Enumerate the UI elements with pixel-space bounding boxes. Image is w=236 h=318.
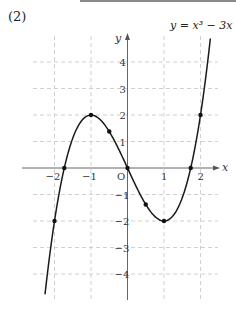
y-axis-label: y <box>114 32 122 45</box>
y-tick-label: −4 <box>115 269 130 280</box>
y-tick-label: −3 <box>115 243 130 254</box>
origin-label: O <box>117 171 125 182</box>
y-tick-label: 4 <box>120 57 126 68</box>
data-point <box>162 219 166 223</box>
data-point <box>125 166 129 170</box>
x-tick-label: 1 <box>161 171 167 182</box>
x-axis-label: x <box>222 161 229 174</box>
data-point <box>89 113 93 117</box>
y-tick-label: 3 <box>120 84 126 95</box>
data-point <box>62 166 66 170</box>
cubic-function-plot: x y O −2−1124321−1−2−3−4 <box>0 0 236 318</box>
data-point <box>144 202 148 206</box>
x-axis-arrow-icon <box>213 166 220 171</box>
x-tick-label: −2 <box>46 171 61 182</box>
x-tick-label: −1 <box>82 171 97 182</box>
y-axis-arrow-icon <box>125 33 130 40</box>
data-point <box>189 166 193 170</box>
y-tick-label: −1 <box>115 190 130 201</box>
data-point <box>52 219 56 223</box>
data-point <box>198 113 202 117</box>
tick-labels: −2−1124321−1−2−3−4 <box>46 57 204 280</box>
y-tick-label: 2 <box>120 110 126 121</box>
data-point <box>107 129 111 133</box>
axes: x y O <box>22 32 229 300</box>
y-tick-label: 1 <box>120 137 126 148</box>
x-tick-label: 2 <box>198 171 204 182</box>
y-tick-label: −2 <box>115 216 130 227</box>
